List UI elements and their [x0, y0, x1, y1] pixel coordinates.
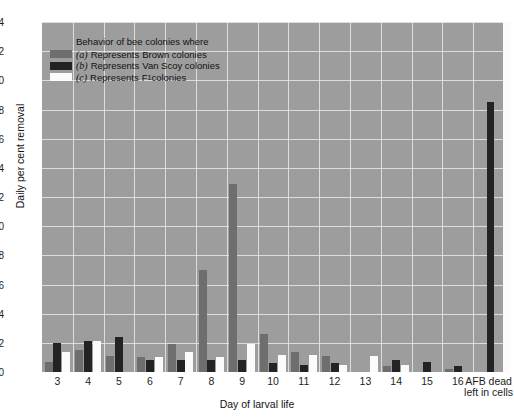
gridline-vertical: [473, 22, 474, 372]
y-tick-label: 2: [0, 337, 4, 348]
bar-b-11: [300, 365, 308, 372]
legend-entry-c: (c) Represents F1 colonies: [50, 72, 220, 84]
x-tick-label: 5: [116, 376, 122, 387]
legend-swatch-f1: [50, 73, 72, 81]
legend-title: Behavior of bee colonies where: [76, 36, 220, 48]
bar-a-8: [199, 270, 207, 372]
legend-key-c: (c): [76, 72, 87, 84]
y-tick-label: 4: [0, 308, 4, 319]
bar-c-14: [401, 365, 409, 372]
gridline-horizontal: [42, 197, 504, 198]
legend-swatch-brown: [50, 50, 72, 58]
legend-verb-a: Represents: [91, 49, 140, 61]
y-tick-label: 0: [0, 367, 4, 378]
x-tick-label: 11: [298, 376, 309, 387]
x-tick-label: 3: [54, 376, 60, 387]
bar-c-3: [62, 352, 70, 372]
y-tick-label: 16: [0, 133, 4, 144]
y-tick-label: 22: [0, 46, 4, 57]
legend: Behavior of bee colonies where (a) Repre…: [50, 36, 220, 83]
bar-a-10: [260, 334, 268, 372]
y-tick-label: 18: [0, 104, 4, 115]
x-tick-label-line: 7: [178, 376, 184, 387]
bar-b-AFB-dead-left-in-cells: [487, 102, 494, 372]
y-tick-label: 14: [0, 162, 4, 173]
gridline-vertical: [227, 22, 228, 372]
bar-b-12: [331, 363, 339, 372]
x-tick-label: 8: [208, 376, 214, 387]
x-tick-label-line: 9: [239, 376, 245, 387]
gridline-vertical: [319, 22, 320, 372]
x-tick-label: 12: [329, 376, 341, 387]
gridline-vertical: [288, 22, 289, 372]
bar-a-16: [445, 369, 453, 372]
legend-verb-b: Represents: [91, 60, 140, 72]
bar-b-3: [53, 343, 61, 372]
gridline-horizontal: [42, 168, 504, 169]
bar-c-8: [216, 357, 224, 372]
bar-c-4: [93, 341, 101, 372]
x-tick-label-line: 12: [329, 376, 341, 387]
x-tick-label: 13: [360, 376, 372, 387]
x-tick-label-line: 6: [147, 376, 153, 387]
y-tick-label: 10: [0, 221, 4, 232]
x-tick-label-line: left in cells: [464, 387, 513, 398]
y-tick-label: 12: [0, 192, 4, 203]
bar-c-7: [185, 352, 193, 372]
bar-a-4: [75, 350, 83, 372]
x-tick-label-line: 8: [208, 376, 214, 387]
bar-b-6: [146, 360, 154, 372]
y-tick-label: 24: [0, 17, 4, 28]
gridline-vertical: [350, 22, 351, 372]
x-tick-label: 10: [267, 376, 279, 387]
gridline-vertical: [258, 22, 259, 372]
x-tick-label-line: 13: [360, 376, 372, 387]
y-tick-label: 8: [0, 250, 4, 261]
bar-a-5: [106, 356, 114, 372]
bar-b-4: [84, 341, 92, 372]
gridline-horizontal: [42, 255, 504, 256]
legend-verb-c: Represents: [90, 72, 139, 84]
figure: 024681012141618202224 Daily per cent rem…: [0, 0, 514, 420]
bar-a-3: [45, 362, 53, 372]
x-tick-label-line: 14: [390, 376, 402, 387]
gridline-horizontal: [42, 226, 504, 227]
y-tick-label: 20: [0, 75, 4, 86]
legend-name-b: Van Scoy colonies: [142, 60, 219, 72]
gridline-vertical: [442, 22, 443, 372]
bar-c-9: [247, 344, 255, 372]
x-tick-label: 16: [452, 376, 464, 387]
legend-key-b: (b): [76, 60, 88, 72]
x-tick-label-line: 4: [85, 376, 91, 387]
x-tick-label: 15: [421, 376, 433, 387]
bar-a-9: [229, 184, 237, 372]
bar-a-12: [322, 356, 330, 372]
bar-b-7: [177, 360, 185, 372]
bar-a-7: [168, 344, 176, 372]
legend-entry-a: (a) Represents Brown colonies: [50, 49, 220, 61]
bar-b-10: [269, 363, 277, 372]
gridline-horizontal: [42, 343, 504, 344]
x-tick-label: 7: [178, 376, 184, 387]
x-tick-label-line: 3: [54, 376, 60, 387]
x-tick-label: 14: [390, 376, 402, 387]
x-tick-label-line: 15: [421, 376, 433, 387]
bar-c-12: [339, 365, 347, 372]
bar-a-11: [291, 352, 299, 372]
y-axis-title: Daily per cent removal: [14, 76, 26, 236]
gridline-horizontal: [42, 22, 504, 23]
x-tick-label-line: 5: [116, 376, 122, 387]
x-tick-label-line: 11: [298, 376, 309, 387]
legend-entry-b: (b) Represents Van Scoy colonies: [50, 60, 220, 72]
gridline-horizontal: [42, 139, 504, 140]
y-tick-label: 6: [0, 279, 4, 290]
bar-b-9: [238, 360, 246, 372]
bar-b-16: [454, 366, 462, 372]
bar-b-14: [392, 360, 400, 372]
x-tick-label: 6: [147, 376, 153, 387]
bar-c-6: [155, 357, 163, 372]
bar-b-15: [423, 362, 431, 372]
legend-name-c-tail: colonies: [151, 72, 186, 84]
bar-c-13: [370, 356, 378, 372]
bar-a-6: [137, 357, 145, 372]
